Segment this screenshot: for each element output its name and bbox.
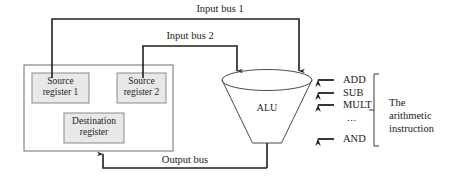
alu-top-ellipse bbox=[222, 70, 312, 91]
source-register-1-label: Source register 1 bbox=[32, 76, 89, 97]
destination-register-label: Destination register bbox=[64, 116, 124, 137]
instruction-bracket-label-line2: arithmetic bbox=[389, 109, 434, 122]
input-bus-1-label: Input bus 1 bbox=[160, 3, 280, 15]
instruction-label-and: AND bbox=[343, 133, 366, 145]
destination-register-line2: register bbox=[64, 127, 124, 138]
instruction-label-mult: MULT bbox=[343, 99, 372, 111]
instruction-label-sub: SUB bbox=[343, 87, 363, 99]
alu-label: ALU bbox=[237, 102, 297, 113]
instruction-bracket-label-line3: instruction bbox=[389, 122, 434, 135]
source-register-2-line2: register 2 bbox=[117, 87, 166, 98]
alu-datapath-diagram: Input bus 1 Input bus 2 Output bus Sourc… bbox=[0, 0, 453, 185]
source-register-1-line1: Source bbox=[32, 76, 89, 87]
instruction-label-ellipsis: ... bbox=[347, 112, 357, 124]
output-bus-label: Output bus bbox=[125, 154, 245, 166]
destination-register-line1: Destination bbox=[64, 116, 124, 127]
source-register-1-line2: register 1 bbox=[32, 87, 89, 98]
source-register-2-line1: Source bbox=[117, 76, 166, 87]
instruction-bracket bbox=[374, 74, 379, 146]
instruction-bracket-label: The arithmetic instruction bbox=[389, 96, 434, 135]
source-register-2-label: Source register 2 bbox=[117, 76, 166, 97]
input-bus-2-label: Input bus 2 bbox=[130, 30, 250, 42]
instruction-bracket-label-line1: The bbox=[389, 96, 434, 109]
instruction-label-add: ADD bbox=[343, 74, 366, 86]
